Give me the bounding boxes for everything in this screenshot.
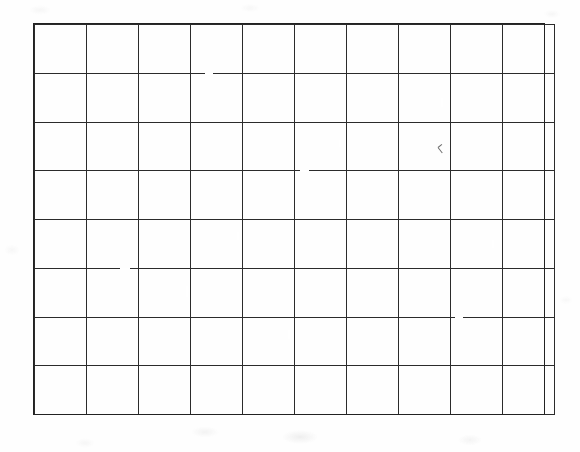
grid-cell[interactable]: [347, 220, 399, 269]
grid-cell[interactable]: [243, 73, 295, 122]
grid-cell[interactable]: [191, 220, 243, 269]
grid-cell[interactable]: [139, 268, 191, 317]
grid-cell[interactable]: [451, 268, 503, 317]
grid-cell[interactable]: [347, 268, 399, 317]
grid-cell[interactable]: [295, 366, 347, 415]
grid-cell[interactable]: [503, 73, 555, 122]
grid-cell[interactable]: [399, 317, 451, 366]
grid-row: [35, 171, 555, 220]
grid-cell[interactable]: [243, 171, 295, 220]
grid-cell[interactable]: [295, 171, 347, 220]
grid-cell[interactable]: [35, 317, 87, 366]
grid-cell[interactable]: [35, 171, 87, 220]
grid-cell[interactable]: [191, 366, 243, 415]
grid-cell[interactable]: [503, 171, 555, 220]
scanned-page: [0, 0, 580, 452]
grid-cell[interactable]: [87, 317, 139, 366]
grid-cell[interactable]: [243, 122, 295, 171]
grid-cell[interactable]: [399, 268, 451, 317]
grid-cell[interactable]: [87, 220, 139, 269]
grid-cell[interactable]: [139, 25, 191, 74]
grid-cell[interactable]: [139, 171, 191, 220]
grid-cell[interactable]: [191, 122, 243, 171]
grid-row: [35, 122, 555, 171]
grid-cell[interactable]: [35, 122, 87, 171]
grid-cell[interactable]: [399, 366, 451, 415]
grid-cell[interactable]: [191, 25, 243, 74]
grid-cell[interactable]: [191, 317, 243, 366]
grid-cell[interactable]: [139, 317, 191, 366]
grid-cell[interactable]: [503, 317, 555, 366]
grid-cell[interactable]: [399, 171, 451, 220]
grid-cell[interactable]: [87, 73, 139, 122]
grid-cell[interactable]: [35, 220, 87, 269]
grid-cell[interactable]: [243, 317, 295, 366]
grid-cell[interactable]: [503, 366, 555, 415]
grid-table[interactable]: [34, 24, 555, 415]
grid-cell[interactable]: [451, 317, 503, 366]
grid-cell[interactable]: [347, 73, 399, 122]
grid-row: [35, 317, 555, 366]
grid-cell[interactable]: [399, 25, 451, 74]
grid-row: [35, 366, 555, 415]
grid-cell[interactable]: [399, 73, 451, 122]
grid-row: [35, 268, 555, 317]
grid-cell[interactable]: [503, 122, 555, 171]
grid-cell[interactable]: [35, 73, 87, 122]
grid-cell[interactable]: [191, 73, 243, 122]
grid-cell[interactable]: [451, 220, 503, 269]
grid-cell[interactable]: [243, 366, 295, 415]
grid-cell[interactable]: [503, 25, 555, 74]
grid-cell[interactable]: [295, 122, 347, 171]
grid-cell[interactable]: [347, 171, 399, 220]
grid-cell[interactable]: [139, 73, 191, 122]
grid-cell[interactable]: [191, 268, 243, 317]
grid-cell[interactable]: [347, 122, 399, 171]
grid-cell[interactable]: [503, 268, 555, 317]
grid-cell[interactable]: [451, 25, 503, 74]
grid-cell[interactable]: [347, 317, 399, 366]
grid-cell[interactable]: [295, 317, 347, 366]
grid-cell[interactable]: [243, 25, 295, 74]
grid-cell[interactable]: [451, 73, 503, 122]
grid-row: [35, 220, 555, 269]
grid-cell[interactable]: [399, 220, 451, 269]
grid-cell[interactable]: [35, 25, 87, 74]
grid-cell[interactable]: [503, 220, 555, 269]
grid-cell[interactable]: [243, 220, 295, 269]
grid-cell[interactable]: [139, 366, 191, 415]
grid-row: [35, 73, 555, 122]
grid-cell[interactable]: [35, 268, 87, 317]
grid-body: [35, 25, 555, 415]
grid-cell[interactable]: [451, 171, 503, 220]
grid-cell[interactable]: [87, 366, 139, 415]
grid-cell[interactable]: [451, 366, 503, 415]
grid-cell[interactable]: [191, 171, 243, 220]
grid-cell[interactable]: [347, 366, 399, 415]
grid-cell[interactable]: [295, 25, 347, 74]
grid-cell[interactable]: [347, 25, 399, 74]
grid-cell[interactable]: [451, 122, 503, 171]
grid-cell[interactable]: [295, 73, 347, 122]
grid-cell[interactable]: [399, 122, 451, 171]
grid-cell[interactable]: [139, 220, 191, 269]
grid-cell[interactable]: [295, 268, 347, 317]
grid-cell[interactable]: [87, 171, 139, 220]
grid-cell[interactable]: [35, 366, 87, 415]
grid-cell[interactable]: [87, 25, 139, 74]
grid-cell[interactable]: [295, 220, 347, 269]
grid-cell[interactable]: [243, 268, 295, 317]
grid-cell[interactable]: [87, 268, 139, 317]
grid-row: [35, 25, 555, 74]
grid-cell[interactable]: [139, 122, 191, 171]
grid-cell[interactable]: [87, 122, 139, 171]
